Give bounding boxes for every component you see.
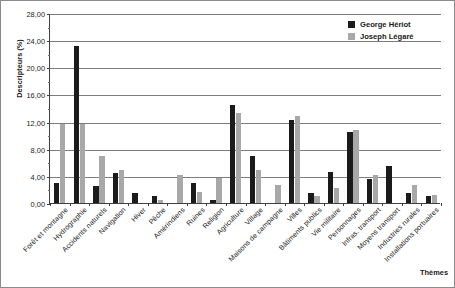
bar-group xyxy=(70,13,90,203)
bar xyxy=(314,196,319,203)
legend-label-series-1: Joseph Légaré xyxy=(360,32,414,41)
bar-group xyxy=(421,13,441,203)
bar xyxy=(426,196,431,203)
legend-label-series-0: George Hériot xyxy=(360,20,411,29)
bar-group xyxy=(265,13,285,203)
bar xyxy=(406,193,411,203)
bar-group xyxy=(226,13,246,203)
bar xyxy=(119,170,124,203)
bar xyxy=(353,130,358,203)
bar-group xyxy=(89,13,109,203)
bar xyxy=(328,172,333,203)
bar xyxy=(250,156,255,203)
bar-group xyxy=(148,13,168,203)
bar xyxy=(230,105,235,203)
x-axis-tick-label: Hiver xyxy=(130,206,148,224)
y-axis-tick-label: 4,00 xyxy=(31,172,45,181)
y-axis-tick-label: 8,00 xyxy=(31,145,45,154)
bar xyxy=(308,193,313,203)
bar xyxy=(113,173,118,203)
bar xyxy=(99,156,104,203)
bar-group xyxy=(50,13,70,203)
bar xyxy=(80,124,85,203)
bar xyxy=(74,46,79,203)
bar xyxy=(289,120,294,203)
bar xyxy=(386,166,391,203)
bar xyxy=(197,192,202,203)
bar-group xyxy=(285,13,305,203)
bar-group xyxy=(304,13,324,203)
bar xyxy=(236,113,241,203)
bar xyxy=(177,175,182,204)
bar-group xyxy=(187,13,207,203)
bar-group xyxy=(324,13,344,203)
bar-group xyxy=(246,13,266,203)
bar xyxy=(60,124,65,203)
y-axis-title: Descripteurs (%) xyxy=(15,24,24,114)
y-axis-tick-label: 28,00 xyxy=(27,10,46,19)
bar xyxy=(367,179,372,203)
bar xyxy=(334,188,339,203)
bar xyxy=(210,200,215,203)
legend-swatch-series-1 xyxy=(348,33,355,40)
bar-group xyxy=(128,13,148,203)
bar xyxy=(191,183,196,203)
legend-item-1: Joseph Légaré xyxy=(348,32,414,41)
bar xyxy=(54,183,59,203)
x-axis-tick-labels: Forêt et montagneHydrographieAccidents n… xyxy=(49,206,449,286)
bar xyxy=(158,200,163,203)
bar xyxy=(275,185,280,203)
bar xyxy=(93,186,98,203)
bar xyxy=(152,196,157,203)
y-axis-tick-label: 20,00 xyxy=(27,64,46,73)
y-axis-tick-label: 12,00 xyxy=(27,118,46,127)
legend: George Hériot Joseph Légaré xyxy=(345,17,417,46)
y-axis-tick-label: 0,00 xyxy=(31,200,45,209)
x-axis-title: Thèmes xyxy=(420,268,448,277)
bar-group xyxy=(167,13,187,203)
y-axis-tick-label: 24,00 xyxy=(27,37,46,46)
bar xyxy=(347,132,352,203)
bar xyxy=(412,185,417,203)
legend-swatch-series-0 xyxy=(348,21,355,28)
bar xyxy=(132,193,137,203)
bar-chart: Descripteurs (%) 0,004,008,0012,0016,002… xyxy=(0,0,455,288)
bar xyxy=(256,170,261,203)
bar xyxy=(216,178,221,203)
legend-item-0: George Hériot xyxy=(348,20,414,29)
bar xyxy=(295,116,300,203)
bar xyxy=(373,175,378,204)
bar xyxy=(432,195,437,203)
bar-group xyxy=(206,13,226,203)
bar-group xyxy=(109,13,129,203)
y-axis-tick-label: 16,00 xyxy=(27,91,46,100)
